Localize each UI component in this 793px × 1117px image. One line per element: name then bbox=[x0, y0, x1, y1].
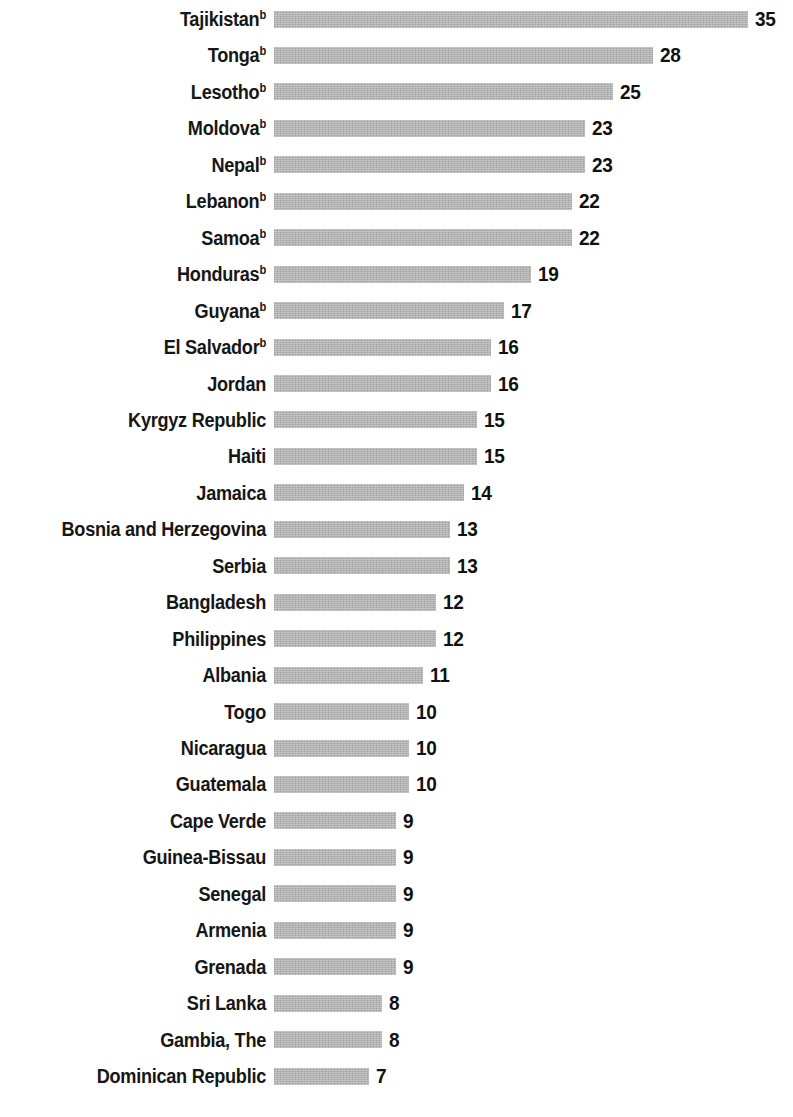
bar-track: 12 bbox=[274, 626, 465, 652]
bar-track: 8 bbox=[274, 1027, 400, 1053]
bar-value-label: 19 bbox=[538, 261, 558, 287]
bar bbox=[274, 667, 423, 684]
bar-row: Jordan16 bbox=[0, 371, 793, 397]
bar-value-label: 28 bbox=[660, 42, 680, 68]
bar-track: 9 bbox=[274, 881, 414, 907]
bar-track: 10 bbox=[274, 699, 438, 725]
bar bbox=[274, 995, 382, 1012]
category-label: Guyanab bbox=[19, 298, 266, 324]
category-label: Gambia, The bbox=[19, 1027, 266, 1053]
bar-value-label: 16 bbox=[498, 371, 518, 397]
bar-value-label: 9 bbox=[403, 881, 413, 907]
bar-rows-container: Tajikistanb35Tongab28Lesothob25Moldovab2… bbox=[0, 0, 793, 1117]
category-label: Bangladesh bbox=[19, 589, 266, 615]
bar bbox=[274, 740, 409, 757]
bar bbox=[274, 11, 748, 28]
bar-track: 13 bbox=[274, 553, 478, 579]
bar-row: Philippines12 bbox=[0, 626, 793, 652]
bar-value-label: 17 bbox=[511, 298, 531, 324]
category-label: Jamaica bbox=[19, 480, 266, 506]
category-label: Cape Verde bbox=[19, 808, 266, 834]
footnote-marker: b bbox=[259, 153, 266, 167]
bar bbox=[274, 375, 491, 392]
bar-row: Albania11 bbox=[0, 662, 793, 688]
bar-value-label: 7 bbox=[376, 1063, 386, 1089]
bar bbox=[274, 849, 396, 866]
footnote-marker: b bbox=[259, 299, 266, 313]
bar-row: Grenada9 bbox=[0, 954, 793, 980]
bar-value-label: 15 bbox=[484, 443, 504, 469]
bar-value-label: 9 bbox=[403, 808, 413, 834]
bar-value-label: 13 bbox=[457, 553, 477, 579]
bar-track: 23 bbox=[274, 152, 614, 178]
bar-row: Haiti15 bbox=[0, 443, 793, 469]
bar-value-label: 10 bbox=[416, 735, 436, 761]
bar-value-label: 11 bbox=[430, 662, 449, 688]
bar-value-label: 14 bbox=[471, 480, 491, 506]
bar bbox=[274, 630, 436, 647]
bar-value-label: 9 bbox=[403, 917, 413, 943]
bar-track: 23 bbox=[274, 115, 614, 141]
bar bbox=[274, 83, 613, 100]
bar-value-label: 10 bbox=[416, 699, 436, 725]
footnote-marker: b bbox=[259, 190, 266, 204]
bar-track: 25 bbox=[274, 79, 641, 105]
bar-track: 16 bbox=[274, 334, 519, 360]
footnote-marker: b bbox=[259, 263, 266, 277]
bar bbox=[274, 484, 464, 501]
category-label: Albania bbox=[19, 662, 266, 688]
bar-track: 19 bbox=[274, 261, 560, 287]
bar bbox=[274, 229, 572, 246]
category-label: Jordan bbox=[19, 371, 266, 397]
bar bbox=[274, 594, 436, 611]
category-label: Samoab bbox=[19, 225, 266, 251]
bar bbox=[274, 193, 572, 210]
bar-value-label: 12 bbox=[443, 589, 463, 615]
footnote-marker: b bbox=[259, 80, 266, 94]
bar-value-label: 13 bbox=[457, 516, 477, 542]
bar-row: Samoab22 bbox=[0, 225, 793, 251]
bar bbox=[274, 266, 531, 283]
category-label: Bosnia and Herzegovina bbox=[19, 516, 266, 542]
bar-track: 15 bbox=[274, 407, 506, 433]
bar-value-label: 15 bbox=[484, 407, 504, 433]
bar-track: 16 bbox=[274, 371, 519, 397]
bar bbox=[274, 812, 396, 829]
bar-row: Tajikistanb35 bbox=[0, 6, 793, 32]
bar-track: 10 bbox=[274, 735, 438, 761]
bar-row: Serbia13 bbox=[0, 553, 793, 579]
bar-row: Kyrgyz Republic15 bbox=[0, 407, 793, 433]
category-label: Serbia bbox=[19, 553, 266, 579]
bar-value-label: 8 bbox=[389, 990, 399, 1016]
bar-value-label: 16 bbox=[498, 334, 518, 360]
bar-track: 9 bbox=[274, 808, 414, 834]
bar-value-label: 9 bbox=[403, 954, 413, 980]
bar-track: 7 bbox=[274, 1063, 387, 1089]
bar-row: Nicaragua10 bbox=[0, 735, 793, 761]
bar-row: Hondurasb19 bbox=[0, 261, 793, 287]
bar bbox=[274, 776, 409, 793]
bar bbox=[274, 339, 491, 356]
bar-value-label: 22 bbox=[579, 225, 599, 251]
bar-value-label: 25 bbox=[620, 79, 640, 105]
category-label: Togo bbox=[19, 699, 266, 725]
bar-track: 12 bbox=[274, 589, 465, 615]
bar-track: 8 bbox=[274, 990, 400, 1016]
bar-row: Bangladesh12 bbox=[0, 589, 793, 615]
bar bbox=[274, 922, 396, 939]
bar bbox=[274, 47, 653, 64]
bar-value-label: 8 bbox=[389, 1027, 399, 1053]
footnote-marker: b bbox=[259, 226, 266, 240]
category-label: El Salvadorb bbox=[19, 334, 266, 360]
category-label: Tongab bbox=[19, 42, 266, 68]
bar bbox=[274, 156, 585, 173]
category-label: Guatemala bbox=[19, 771, 266, 797]
category-label: Haiti bbox=[19, 443, 266, 469]
bar-row: Togo10 bbox=[0, 699, 793, 725]
category-label: Hondurasb bbox=[19, 261, 266, 287]
category-label: Guinea-Bissau bbox=[19, 844, 266, 870]
bar-row: Lebanonb22 bbox=[0, 188, 793, 214]
category-label: Nepalb bbox=[19, 152, 266, 178]
category-label: Armenia bbox=[19, 917, 266, 943]
bar-row: Guatemala10 bbox=[0, 771, 793, 797]
